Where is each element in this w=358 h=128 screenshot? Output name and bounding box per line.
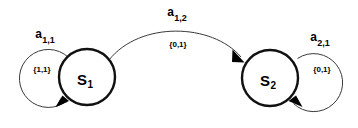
set-label-a-1-1: {1,1} xyxy=(33,65,50,74)
label-a-2-1-base: a xyxy=(310,30,317,44)
label-a-1-1-sub: 1,1 xyxy=(42,35,55,45)
set-label-a-1-2: {0,1} xyxy=(169,40,186,49)
state-node-s2[interactable]: S2 xyxy=(242,50,298,106)
state-circle-s2[interactable] xyxy=(242,50,298,106)
fsm-diagram-canvas: a1,1 {1,1} a2,1 {0,1} a1,2 {0,1} xyxy=(0,0,358,128)
label-a-2-1-sub: 2,1 xyxy=(317,38,330,48)
label-a-1-2-base: a xyxy=(167,5,174,19)
label-a-1-2-sub: 1,2 xyxy=(174,13,187,23)
state-label-s1-sub: 1 xyxy=(87,79,93,90)
state-label-s2-sub: 2 xyxy=(270,80,276,91)
state-circle-s1[interactable] xyxy=(59,49,115,105)
state-label-s1-base: S xyxy=(77,71,87,88)
label-a-1-1-base: a xyxy=(35,27,42,41)
state-label-s2-base: S xyxy=(260,72,270,89)
fsm-svg: a1,1 {1,1} a2,1 {0,1} a1,2 {0,1} xyxy=(0,0,358,128)
set-label-a-2-1: {0,1} xyxy=(313,65,330,74)
state-node-s1[interactable]: S1 xyxy=(59,49,115,105)
